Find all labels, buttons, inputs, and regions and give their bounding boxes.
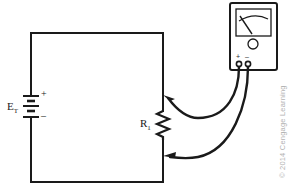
meter-scale-window — [236, 9, 271, 36]
resistor-zigzag-path — [157, 111, 169, 140]
resistor-label-subscript: 1 — [147, 124, 151, 132]
battery-symbol — [23, 96, 39, 117]
copyright-notice: © 2014 Cengage Learning — [278, 85, 287, 178]
lead-upper-arrowhead — [163, 95, 175, 101]
meter-negative-sign: – — [245, 53, 249, 60]
circuit-loop — [31, 33, 163, 182]
test-leads — [168, 67, 248, 158]
source-plus-sign: + — [41, 88, 47, 99]
source-minus-sign: – — [40, 110, 47, 121]
meter-body: + – — [230, 3, 277, 70]
lead-upper-wire — [168, 67, 239, 118]
resistor-label: R1 — [140, 117, 151, 132]
source-label: ET — [7, 100, 19, 115]
source-label-subscript: T — [14, 107, 19, 115]
meter-adjust-knob[interactable] — [248, 39, 258, 49]
resistor-symbol — [157, 111, 169, 140]
copyright-label: © 2014 Cengage Learning — [278, 85, 287, 178]
circuit-figure: + – ET R1 + — [0, 0, 293, 194]
circuit-diagram-svg: + – ET R1 + — [0, 0, 293, 194]
meter-positive-sign: + — [236, 53, 240, 60]
